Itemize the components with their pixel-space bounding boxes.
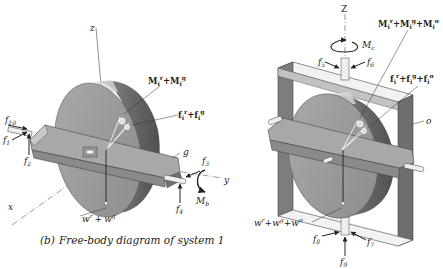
force-f8-label: f8 xyxy=(312,234,320,245)
force-f5-arrow xyxy=(325,62,339,68)
force-f4-label: f4 xyxy=(175,204,183,215)
moment-mc-arrow xyxy=(331,40,358,52)
inertia-force-label-right: fir+fig+fio xyxy=(390,72,434,85)
force-f8-arrow xyxy=(322,232,339,236)
inertia-force-label-left: fir+fig xyxy=(178,108,205,121)
force-f1-label: f1 xyxy=(2,135,10,146)
figure-caption: (b)Free-body diagram of system 1 xyxy=(40,234,225,246)
frame-g-label: g xyxy=(183,147,189,157)
moment-mb-arrow xyxy=(197,170,205,192)
z-axis-label: z xyxy=(89,23,95,33)
force-f6-arrow xyxy=(351,62,365,68)
inertia-moment-label-left: Mir+Mig xyxy=(148,74,187,87)
free-body-diagram-figure: z x y g f10 f1 f2 f3 f4 Mb Mir+Mig fir+f… xyxy=(0,0,443,269)
z-axis-line xyxy=(96,28,101,85)
force-f10-label: f10 xyxy=(4,115,16,126)
z-axis-label-right: Z xyxy=(341,4,347,14)
weight-label-left: wr+wg xyxy=(82,212,116,224)
inertia-moment-label-right: Mir+Mig+Mio xyxy=(378,17,439,30)
force-f6-label: f6 xyxy=(366,57,374,68)
right-system-diagram: Z o Mc f5 f6 f8 f7 f9 Mir+Mig+Mio fir+fi… xyxy=(254,4,439,268)
left-system-diagram: z x y g f10 f1 f2 f3 f4 Mb Mir+Mig fir+f… xyxy=(2,23,230,225)
x-axis-label: x xyxy=(8,202,13,212)
force-f3-label: f3 xyxy=(201,156,209,167)
y-axis-label: y xyxy=(223,175,230,185)
force-f2-label: f2 xyxy=(23,156,31,167)
force-f5-label: f5 xyxy=(317,57,325,68)
force-f9-label: f9 xyxy=(339,257,347,268)
frame-o-label: o xyxy=(426,116,432,126)
moment-mc-label: Mc xyxy=(361,40,375,51)
weight-label-right: wr+wg+wo xyxy=(254,216,303,228)
moment-mb-label: Mb xyxy=(195,196,209,207)
